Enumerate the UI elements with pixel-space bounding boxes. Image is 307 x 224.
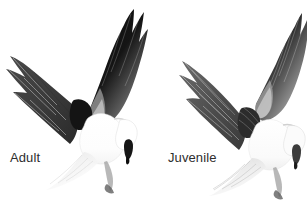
adult-label: Adult	[10, 151, 40, 165]
bird-comparison-plate: Adult Juvenile	[0, 0, 307, 224]
juvenile-label: Juvenile	[168, 151, 217, 165]
illustration-canvas	[0, 0, 307, 224]
